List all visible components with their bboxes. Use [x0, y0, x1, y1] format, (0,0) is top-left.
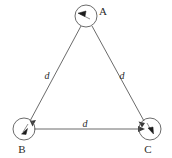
vertex-a: A: [75, 5, 107, 27]
triangle-particle-diagram: A B C d d d: [0, 0, 172, 158]
velocity-vector-b: [22, 124, 29, 135]
vertex-circle-a: [75, 5, 97, 27]
velocity-vector-a: [78, 11, 90, 19]
vertex-label-b: B: [18, 143, 25, 155]
vertex-label-c: C: [144, 143, 151, 155]
side-label-bc: d: [83, 118, 89, 129]
side-label-ab: d: [45, 70, 51, 81]
edge-line-ac: [92, 26, 144, 121]
side-label-ac: d: [120, 70, 126, 81]
diagram-canvas: A B C d d d: [0, 0, 172, 158]
vertex-circle-b: [13, 118, 35, 140]
edge-line-ab: [30, 26, 81, 121]
side-label-group: d d d: [45, 70, 126, 129]
velocity-vector-c: [147, 123, 154, 134]
vertex-label-a: A: [99, 5, 107, 17]
